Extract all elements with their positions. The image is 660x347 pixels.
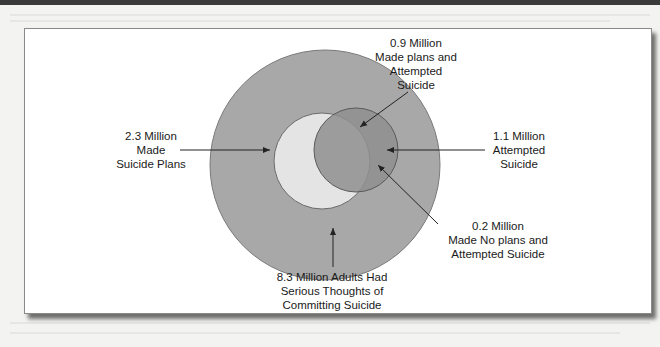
label-attempted: 1.1 Million Attempted Suicide xyxy=(484,129,554,171)
label-made-plans: 2.3 Million Made Suicide Plans xyxy=(111,129,191,171)
label-plans-and-attempted: 0.9 Million Made plans and Attempted Sui… xyxy=(361,36,471,92)
attempted-circle xyxy=(314,108,398,192)
label-serious-thoughts: 8.3 Million Adults Had Serious Thoughts … xyxy=(262,270,402,312)
label-no-plans-attempted: 0.2 Million Made No plans and Attempted … xyxy=(433,219,563,261)
